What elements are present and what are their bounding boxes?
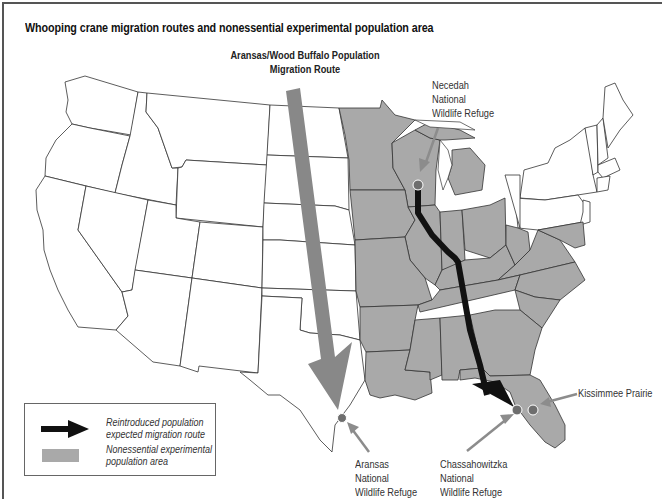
kissimmee-pointer-line [547, 394, 577, 402]
black-arrow-icon [41, 420, 91, 438]
necedah-label-line3: Wildlife Refuge [432, 106, 494, 120]
state-ohio [462, 198, 506, 258]
chassahowitzka-pointer-line [467, 418, 508, 451]
chassahowitzka-marker [512, 405, 522, 415]
state-colorado [192, 222, 263, 288]
legend-route-line2: expected migration route [106, 429, 205, 441]
legend-item-route: Reintroduced population expected migrati… [106, 417, 205, 441]
map-legend: Reintroduced population expected migrati… [24, 403, 216, 476]
aransas-route-label: Aransas/Wood Buffalo Population Migratio… [226, 48, 384, 76]
state-newyork [520, 128, 597, 200]
necedah-label: Necedah National Wildlife Refuge [432, 78, 494, 120]
state-newmexico [180, 278, 262, 373]
legend-route-line1: Reintroduced population [106, 417, 205, 429]
aransas-pointer-line [352, 429, 369, 452]
kissimmee-marker [528, 405, 538, 415]
state-arkansas [360, 305, 418, 352]
aransas-label-line2: National [355, 471, 417, 485]
state-michigan-lp [448, 148, 485, 195]
kissimmee-label: Kissimmee Prairie [578, 386, 652, 400]
aransas-label-line1: Aransas [355, 457, 417, 471]
aransas-pointer-head [347, 422, 359, 434]
state-wyoming [176, 160, 267, 227]
chassahowitzka-label-line1: Chassahowitzka [440, 457, 507, 471]
gray-swatch-icon [42, 449, 79, 462]
state-ohio-white [505, 175, 520, 228]
state-iowa [350, 190, 415, 240]
state-indiana [440, 210, 465, 270]
chassahowitzka-label-line3: Wildlife Refuge [440, 485, 507, 499]
legend-area-line2: population area [106, 456, 212, 468]
aransas-label-line3: Wildlife Refuge [355, 485, 417, 499]
necedah-label-line1: Necedah [432, 78, 494, 92]
state-connecticut [597, 176, 610, 192]
chassahowitzka-label-line2: National [440, 471, 507, 485]
state-maine [603, 83, 633, 148]
chassahowitzka-label: Chassahowitzka National Wildlife Refuge [440, 457, 507, 499]
legend-item-population-area: Nonessential experimental population are… [106, 444, 212, 468]
aransas-route-label-line1: Aransas/Wood Buffalo Population [226, 48, 384, 62]
aransas-label: Aransas National Wildlife Refuge [355, 457, 417, 499]
necedah-marker [413, 180, 423, 190]
necedah-label-line2: National [432, 92, 494, 106]
legend-area-line1: Nonessential experimental [106, 444, 212, 456]
aransas-marker [338, 414, 347, 423]
aransas-route-label-line2: Migration Route [226, 62, 384, 76]
